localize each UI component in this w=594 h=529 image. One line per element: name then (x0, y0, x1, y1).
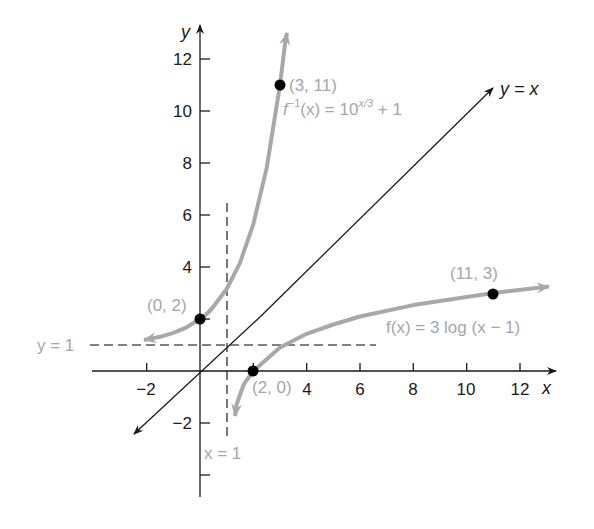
y-tick-label-4: 4 (183, 258, 192, 277)
inverse-function-label: f−1(x) = 10x/3 + 1 (283, 97, 402, 119)
point-2-0 (248, 366, 259, 377)
y-axis-label: y (179, 22, 191, 42)
point-label-0-2: (0, 2) (147, 296, 187, 315)
inverse-function-curve-lower (144, 319, 200, 340)
asymptote-y-label: y = 1 (37, 336, 74, 355)
chart-canvas: −2 4 6 8 10 12 −2 4 6 8 10 12 x y (3, 11… (0, 0, 594, 529)
point-label-3-11: (3, 11) (289, 76, 337, 95)
point-3-11 (275, 80, 286, 91)
log-function-curve-lower (235, 371, 253, 416)
y-tick-label-neg2: −2 (173, 414, 192, 433)
x-tick-label-10: 10 (457, 380, 476, 399)
x-tick-label-6: 6 (355, 380, 364, 399)
chart-figure: −2 4 6 8 10 12 −2 4 6 8 10 12 x y (3, 11… (0, 0, 594, 529)
y-tick-label-10: 10 (173, 102, 192, 121)
log-function-label: f(x) = 3 log (x − 1) (386, 318, 520, 337)
y-tick-label-12: 12 (173, 50, 192, 69)
y-ticks (200, 59, 210, 475)
point-11-3 (488, 289, 499, 300)
point-label-11-3: (11, 3) (450, 264, 498, 283)
x-tick-label-neg2: −2 (136, 380, 155, 399)
x-tick-label-8: 8 (408, 380, 417, 399)
x-axis-label: x (541, 378, 552, 398)
identity-line-lower (134, 317, 260, 434)
inverse-function-curve-upper (200, 33, 287, 319)
x-tick-label-4: 4 (302, 380, 311, 399)
y-tick-label-6: 6 (183, 206, 192, 225)
y-tick-label-8: 8 (183, 154, 192, 173)
point-0-2 (195, 314, 206, 325)
identity-line-label: y = x (498, 79, 540, 99)
x-tick-label-12: 12 (511, 380, 530, 399)
asymptote-x-label: x = 1 (204, 444, 241, 463)
point-label-2-0: (2, 0) (252, 378, 292, 397)
